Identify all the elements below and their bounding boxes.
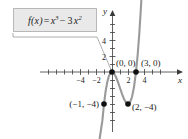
point-label-origin: (0, 0) [116,58,136,68]
point-label-left-min: (−1, −4) [69,99,99,109]
y-tick-label-2: 2 [102,53,106,62]
formula-equals: = [43,15,51,26]
formula-callout-box: f(x)=x3−3x2 [13,8,97,32]
point-label-right-min: (2, −4) [132,102,157,112]
x-axis-arrow [177,69,183,75]
y-axis-label: y [102,6,107,16]
point-marker-left-min [101,101,107,107]
point-marker-right-min [125,101,131,107]
cubic-graph-figure: −4 −2 2 4 2 4 y x (0, 0) (3, 0) (−1, −4)… [0,0,188,139]
y-axis-arrow [110,10,116,16]
x-tick-label-2: 2 [127,76,131,85]
point-label-root-three: (3, 0) [141,58,161,68]
formula-term2-exponent: 2 [78,14,81,21]
formula-expression: f(x)=x3−3x2 [28,14,82,26]
point-marker-origin [109,69,115,75]
formula-leader-line [13,33,112,72]
formula-minus: − [59,15,67,26]
x-tick-label-4: 4 [143,76,147,85]
formula-lhs: f(x) [28,15,43,26]
y-tick-label-4: 4 [102,37,106,46]
x-axis-label: x [177,75,182,85]
formula-term2-coefficient: 3 [67,15,74,26]
x-tick-label-neg4: −4 [76,76,85,85]
x-tick-label-neg2: −2 [92,76,101,85]
point-marker-root-three [133,69,139,75]
